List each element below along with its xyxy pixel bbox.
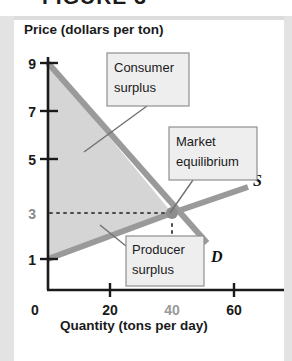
producer-surplus-callout: Producer surplus: [126, 236, 204, 286]
consumer-surplus-label-line2: surplus: [114, 80, 156, 95]
x-tick-label-60: 60: [226, 302, 242, 318]
y-tick-label-1: 1: [28, 252, 36, 268]
market-equilibrium-label-line1: Market: [176, 134, 216, 149]
x-tick-label-20: 20: [102, 302, 118, 318]
producer-surplus-label-line1: Producer: [132, 242, 185, 257]
y-tick-label-9: 9: [28, 56, 36, 72]
market-equilibrium-label-line2: equilibrium: [176, 154, 239, 169]
x-tick-label-40: 40: [164, 302, 180, 318]
consumer-surplus-label-line1: Consumer: [114, 60, 175, 75]
y-tick-label-3: 3: [28, 206, 36, 222]
consumer-surplus-callout: Consumer surplus: [107, 53, 189, 106]
demand-curve-label: D: [210, 248, 223, 265]
y-tick-label-7: 7: [28, 104, 36, 120]
y-tick-label-5: 5: [28, 152, 36, 168]
market-equilibrium-callout: Market equilibrium: [169, 127, 257, 180]
origin-label: 0: [31, 302, 39, 318]
producer-surplus-label-line2: surplus: [132, 262, 174, 277]
equilibrium-point-marker: [166, 207, 178, 219]
figure-root: FIGURE 3 Price (dollars per ton) Quantit…: [0, 0, 292, 361]
supply-curve-upper: [172, 187, 248, 213]
supply-demand-chart: 9 7 5 3 1 0 20 40 60 S D Consumer surplu…: [0, 0, 292, 361]
